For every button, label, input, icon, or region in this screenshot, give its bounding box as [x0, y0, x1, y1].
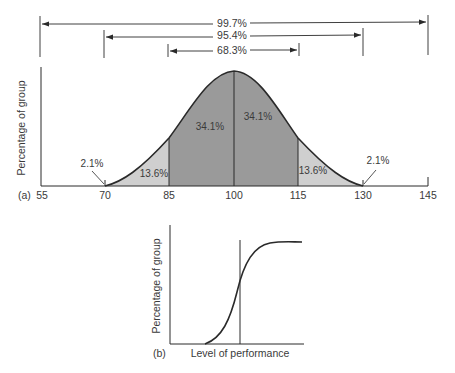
- tick-115: 115: [290, 189, 307, 201]
- pct-right-dark: 34.1%: [244, 111, 272, 122]
- axes-b: [170, 225, 304, 344]
- pct-right-tail: 2.1%: [367, 155, 390, 166]
- pct-left-dark: 34.1%: [196, 121, 224, 132]
- cropped-caption: [150, 368, 450, 373]
- region-right-light: [298, 138, 363, 186]
- bracket-68-3-label: 68.3%: [217, 44, 247, 56]
- tick-70: 70: [99, 189, 111, 201]
- panel-label-a: (a): [18, 189, 31, 201]
- y-axis-label-a: Percentage of group: [15, 80, 27, 175]
- tick-100: 100: [225, 189, 243, 201]
- y-axis-label-b: Percentage of group: [150, 238, 162, 333]
- sigmoid-curve: [205, 242, 302, 344]
- figure: 99.7% 95.4% 68.3%: [0, 0, 455, 373]
- pct-left-tail: 2.1%: [81, 158, 104, 169]
- pct-left-light: 13.6%: [140, 168, 168, 179]
- x-axis-label-b: Level of performance: [191, 347, 290, 359]
- chart-a: 99.7% 95.4% 68.3%: [15, 15, 437, 201]
- bracket-95-4-label: 95.4%: [217, 29, 247, 41]
- tick-85: 85: [163, 189, 175, 201]
- leader-left-tail: [92, 171, 104, 184]
- chart-b: Percentage of group (b) Level of perform…: [150, 225, 304, 359]
- leader-right-tail: [364, 170, 376, 184]
- tick-145: 145: [419, 189, 437, 201]
- pct-right-light: 13.6%: [299, 165, 327, 176]
- panel-label-b: (b): [153, 347, 166, 359]
- tick-55: 55: [36, 189, 48, 201]
- bracket-99-7-label: 99.7%: [217, 17, 247, 29]
- tick-130: 130: [354, 189, 372, 201]
